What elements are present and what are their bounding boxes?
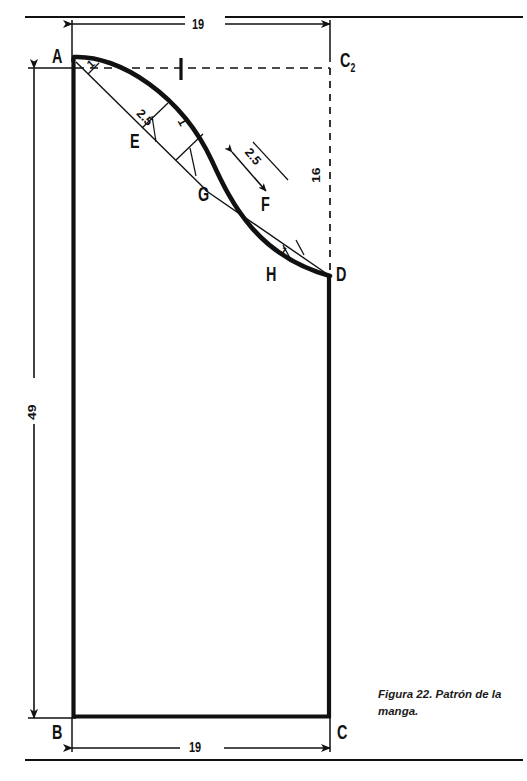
dimension-value-left-49: 49 <box>27 404 38 420</box>
vertex-label-D: D <box>336 264 346 284</box>
vertex-label-C2-base: C <box>340 49 350 71</box>
vertex-label-A: A <box>52 46 62 66</box>
sleeve-cap-curve <box>74 57 330 276</box>
dimension-value-bottom-19: 19 <box>189 740 201 754</box>
dimension-value-right-16: 16 <box>311 167 322 183</box>
dim-bottom-text-gap <box>180 738 224 757</box>
figure-caption-line2: manga. <box>378 703 518 720</box>
figure-caption: Figura 22. Patrón de la manga. <box>378 686 518 719</box>
sleeve-pattern-drawing <box>0 0 527 781</box>
vertex-label-B: B <box>52 722 62 742</box>
offset-ticks <box>88 63 304 260</box>
vertex-label-F: F <box>261 194 270 214</box>
vertex-label-C: C <box>337 722 347 742</box>
figure-page: A B C C2 D E F G H 19 19 49 16 1 2.5 1 2… <box>0 0 527 781</box>
dimension-left-49 <box>24 68 76 718</box>
vertex-label-C2-subscript: 2 <box>350 61 355 75</box>
dimension-value-top-19: 19 <box>192 17 204 31</box>
tick-bound-mid <box>190 148 196 176</box>
tick-offset-mid <box>176 134 203 160</box>
dim-top-text-gap <box>185 15 225 33</box>
vertex-label-G: G <box>198 184 209 204</box>
construction-line-a-c2 <box>76 58 330 80</box>
vertex-label-C2: C2 <box>340 50 355 74</box>
vertex-label-E: E <box>130 131 140 151</box>
pattern-outline <box>72 57 331 718</box>
figure-caption-line1: Figura 22. Patrón de la <box>378 686 518 703</box>
construction-chords <box>76 62 330 276</box>
vertex-label-H: H <box>266 264 276 284</box>
